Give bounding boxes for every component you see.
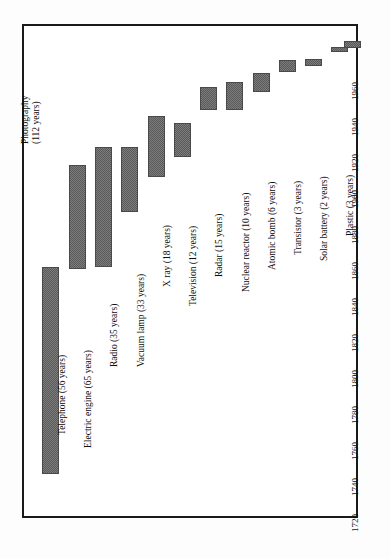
bar-transistor[interactable] <box>305 59 322 66</box>
category-label-radar: Radar (15 years) <box>214 214 225 277</box>
bar-atomic-bomb[interactable] <box>279 60 296 72</box>
bar-vacuum-lamp[interactable] <box>148 116 165 177</box>
category-label-atomic-bomb: Atomic bomb (6 years) <box>267 182 278 270</box>
bar-electric-engine[interactable] <box>95 147 112 267</box>
category-label-photography: Photography (112 years) <box>20 86 42 144</box>
category-label-radio: Radio (35 years) <box>109 304 120 367</box>
axis-tick-1860: 1860 <box>350 262 360 280</box>
axis-tick-1940: 1940 <box>350 118 360 136</box>
category-label-telephone: Telephone (56 years) <box>57 355 68 435</box>
axis-tick-1720: 1720 <box>350 514 360 532</box>
chart-frame: Photography (112 years) Telephone (56 ye… <box>22 24 358 518</box>
bar-plastic[interactable] <box>344 41 361 48</box>
category-label-transistor: Transistor (3 years) <box>293 181 304 255</box>
axis-tick-1900: 1900 <box>350 190 360 208</box>
bar-radio[interactable] <box>121 147 138 212</box>
bar-nuclear-reactor[interactable] <box>253 73 270 92</box>
axis-tick-1740: 1740 <box>350 478 360 496</box>
bar-television[interactable] <box>200 87 217 110</box>
category-label-solar-battery: Solar battery (2 years) <box>319 176 330 261</box>
axis-tick-1820: 1820 <box>350 334 360 352</box>
category-label-nuclear-reactor: Nuclear reactor (10 years) <box>241 193 252 292</box>
axis-tick-1880: 1880 <box>350 226 360 244</box>
chart-page: Photography (112 years) Telephone (56 ye… <box>0 0 391 559</box>
category-label-vacuum-lamp: Vacuum lamp (33 years) <box>136 274 147 367</box>
category-label-electric-engine: Electric engine (65 years) <box>83 350 94 448</box>
bar-radar[interactable] <box>226 82 243 110</box>
axis-tick-1780: 1780 <box>350 406 360 424</box>
category-label-television: Television (12 years) <box>188 226 199 306</box>
plot-area: Photography (112 years) Telephone (56 ye… <box>24 26 356 516</box>
axis-tick-1960: 1960 <box>350 82 360 100</box>
category-label-x-ray: X ray (18 years) <box>162 225 173 287</box>
axis-tick-1840: 1840 <box>350 298 360 316</box>
bar-x-ray[interactable] <box>174 123 191 157</box>
year-axis: 1960 1940 1920 1900 1880 1860 1840 1820 … <box>360 24 391 518</box>
axis-tick-1760: 1760 <box>350 442 360 460</box>
bar-telephone[interactable] <box>69 165 86 269</box>
axis-tick-1800: 1800 <box>350 370 360 388</box>
axis-tick-1920: 1920 <box>350 154 360 172</box>
